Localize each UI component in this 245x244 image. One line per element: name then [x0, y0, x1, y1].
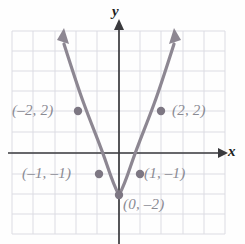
x-axis	[8, 148, 228, 158]
point-marker-0-neg2	[115, 191, 123, 199]
graph-figure: (–2, 2) (2, 2) (–1, –1) (1, –1) (0, –2) …	[0, 0, 245, 244]
point-marker-2-2	[157, 107, 165, 115]
point-marker-neg2-2	[74, 107, 82, 115]
point-marker-neg1-neg1	[95, 170, 103, 178]
point-label-0-neg2: (0, –2)	[123, 196, 164, 213]
curve-arrow-right	[169, 28, 181, 44]
point-label-neg1-neg1: (–1, –1)	[22, 165, 71, 182]
point-label-2-2: (2, 2)	[172, 102, 206, 119]
point-label-neg2-2: (–2, 2)	[12, 102, 53, 119]
y-axis-label: y	[112, 3, 119, 20]
point-label-1-neg1: (1, –1)	[144, 165, 185, 182]
point-marker-1-neg1	[136, 170, 144, 178]
x-axis-label: x	[228, 143, 236, 160]
curve-arrow-left	[57, 28, 69, 44]
